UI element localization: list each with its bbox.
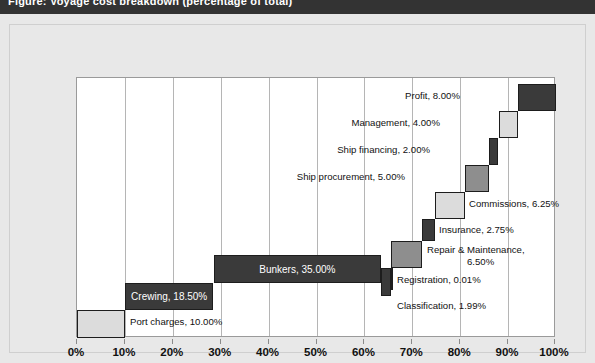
xtick-label-30: 30%: [208, 346, 231, 358]
xtick-label-60: 60%: [352, 346, 375, 358]
xtick-10: [124, 339, 125, 344]
xtick-60: [363, 339, 364, 344]
x-axis: 0% 10% 20% 30% 40% 50% 60% 70% 80% 90% 1…: [76, 339, 555, 363]
figure-title-bar: Figure: Voyage cost breakdown (percentag…: [0, 0, 595, 14]
xtick-label-40: 40%: [256, 346, 279, 358]
xtick-label-100: 100%: [539, 346, 568, 358]
xtick-label-20: 20%: [160, 346, 183, 358]
bar-profit[interactable]: [518, 84, 556, 111]
label-ship-procurement: Ship procurement, 5.00%: [252, 171, 405, 182]
xtick-0: [76, 339, 77, 344]
xtick-80: [459, 339, 460, 344]
bar-port-charges[interactable]: [77, 310, 125, 338]
label-commissions: Commissions, 6.25%: [469, 198, 559, 209]
label-management: Management, 4.00%: [287, 117, 440, 128]
xtick-70: [411, 339, 412, 344]
xtick-40: [268, 339, 269, 344]
xtick-label-70: 70%: [400, 346, 423, 358]
figure-page: Bunkers, 35.00% Crewing, 18.50% Profit, …: [0, 14, 595, 363]
xtick-30: [220, 339, 221, 344]
xtick-label-10: 10%: [112, 346, 135, 358]
xtick-label-0: 0%: [68, 346, 85, 358]
gridline-40: [269, 78, 270, 336]
label-ship-financing: Ship financing, 2.00%: [277, 144, 430, 155]
bar-crewing[interactable]: Crewing, 18.50%: [125, 283, 214, 310]
xtick-label-80: 80%: [448, 346, 471, 358]
xtick-100: [554, 339, 555, 344]
chart-frame: Bunkers, 35.00% Crewing, 18.50% Profit, …: [9, 24, 586, 353]
label-port-charges: Port charges, 10.00%: [130, 316, 222, 327]
figure-title-text: Figure: Voyage cost breakdown (percentag…: [8, 0, 292, 7]
chart-plot-area: Bunkers, 35.00% Crewing, 18.50% Profit, …: [76, 77, 555, 337]
label-registration: Registration, 0.01%: [397, 274, 481, 285]
label-repair-maintenance-line1: Repair & Maintenance,: [427, 244, 525, 255]
xtick-label-50: 50%: [304, 346, 327, 358]
bar-crewing-label: Crewing, 18.50%: [126, 284, 213, 309]
xtick-label-90: 90%: [496, 346, 519, 358]
bar-ship-procurement[interactable]: [465, 165, 489, 192]
label-profit: Profit, 8.00%: [327, 90, 460, 101]
bar-bunkers-final[interactable]: Bunkers, 35.00%: [214, 255, 382, 283]
bar-commissions[interactable]: [435, 192, 465, 219]
bar-repair-maintenance[interactable]: [391, 241, 422, 268]
bar-classification-box[interactable]: [381, 268, 391, 296]
xtick-20: [172, 339, 173, 344]
bar-management[interactable]: [499, 111, 518, 138]
xtick-50: [316, 339, 317, 344]
xtick-90: [507, 339, 508, 344]
label-insurance: Insurance, 2.75%: [439, 224, 514, 235]
bar-registration[interactable]: [391, 268, 393, 290]
bar-bunkers-label: Bunkers, 35.00%: [215, 256, 381, 282]
gridline-30: [221, 78, 222, 336]
bar-insurance[interactable]: [422, 219, 435, 241]
bar-ship-financing[interactable]: [489, 138, 499, 165]
label-repair-maintenance-line2: 6.50%: [467, 256, 494, 267]
label-classification: Classification, 1.99%: [397, 300, 486, 311]
